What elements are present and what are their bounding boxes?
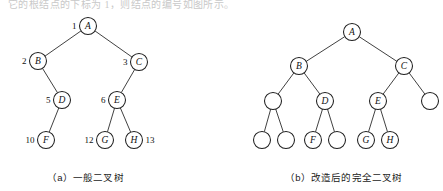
node-index-label: 1: [72, 21, 77, 31]
node-index-label: 6: [101, 95, 106, 105]
tree-edge: [95, 31, 132, 57]
node-label: G: [102, 135, 109, 145]
tree-edge: [316, 109, 323, 132]
tree-node-A: A1: [72, 18, 97, 35]
node-index-label: 12: [85, 135, 94, 145]
tree-edge: [45, 31, 81, 56]
tree-node-empty: [329, 132, 346, 149]
tree-node-empty: [422, 93, 439, 110]
node-label: E: [374, 96, 381, 106]
node-label: G: [363, 135, 370, 145]
node-label: D: [58, 95, 66, 105]
node-circle: [265, 93, 282, 110]
tree-edge: [264, 109, 270, 132]
tree-node-E: E: [370, 93, 387, 110]
tree-edge: [121, 69, 134, 92]
node-index-label: 10: [26, 135, 36, 145]
tree-edge: [276, 109, 284, 132]
tree-node-C: C: [396, 58, 413, 75]
node-circle: [278, 132, 295, 149]
tree-edge: [369, 109, 376, 132]
binary-tree-figure: 它的根结点的下标为 1，则结点的编号如图所示。 A1B2C3D5E6F10G12…: [0, 0, 443, 191]
tree-node-F: F: [305, 132, 322, 149]
node-index-label: 13: [146, 135, 156, 145]
tree-edge: [359, 37, 397, 62]
node-index-label: 3: [123, 57, 128, 67]
tree-diagram-canvas: A1B2C3D5E6F10G12H13ABCDEFGH: [0, 0, 443, 191]
node-label: H: [386, 135, 395, 145]
tree-node-D: D: [317, 93, 334, 110]
tree-node-B: B: [291, 58, 308, 75]
tree-node-F: F10: [26, 132, 55, 149]
tree-node-H: H: [382, 132, 399, 149]
tree-node-C: C3: [123, 54, 148, 71]
tree-node-empty: [278, 132, 295, 149]
tree-node-G: G: [358, 132, 375, 149]
tree-edge: [383, 73, 399, 94]
node-label: F: [309, 135, 316, 145]
node-label: A: [84, 21, 91, 31]
caption-panel-b: （b）改造后的完全二叉树: [285, 170, 403, 184]
tree-node-H: H13: [126, 132, 156, 149]
tree-edge: [409, 73, 425, 94]
tree-edge: [328, 109, 335, 132]
node-label: B: [35, 56, 41, 66]
node-label: H: [130, 135, 139, 145]
tree-node-empty: [254, 132, 271, 149]
tree-edge: [107, 108, 114, 132]
tree-node-B: B2: [22, 53, 47, 70]
tree-node-A: A: [344, 24, 361, 41]
node-label: E: [113, 95, 120, 105]
node-label: F: [42, 135, 49, 145]
caption-panel-a: （a）一般二叉树: [47, 170, 124, 184]
tree-edge: [42, 68, 57, 93]
node-label: B: [296, 61, 302, 71]
node-label: C: [136, 57, 143, 67]
tree-edge: [381, 109, 388, 132]
tree-edge: [49, 108, 59, 132]
node-index-label: 5: [46, 95, 51, 105]
node-index-label: 2: [22, 56, 27, 66]
tree-edge: [306, 37, 345, 62]
node-label: C: [401, 61, 408, 71]
edges-layer: [42, 31, 424, 132]
nodes-layer: A1B2C3D5E6F10G12H13ABCDEFGH: [22, 18, 439, 149]
node-circle: [329, 132, 346, 149]
tree-node-G: G12: [85, 132, 114, 149]
tree-node-E: E6: [101, 92, 126, 109]
node-label: D: [321, 96, 329, 106]
node-circle: [254, 132, 271, 149]
node-label: A: [348, 27, 355, 37]
tree-edge: [278, 73, 294, 94]
tree-node-empty: [265, 93, 282, 110]
node-circle: [422, 93, 439, 110]
tree-node-D: D5: [46, 92, 71, 109]
tree-edge: [120, 108, 130, 132]
tree-edge: [304, 73, 320, 94]
